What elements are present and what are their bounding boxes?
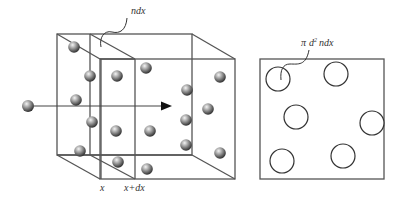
cross-section-view: πd2ndx — [260, 37, 384, 179]
cross-section-circle — [331, 144, 355, 168]
arrow-head-icon — [161, 102, 172, 111]
box-edge-bottom-left — [57, 155, 100, 179]
molecule-sphere — [86, 116, 98, 128]
molecule-sphere — [214, 147, 226, 159]
molecule-sphere — [70, 94, 82, 106]
molecule-sphere — [180, 114, 192, 126]
molecule-sphere — [74, 145, 86, 157]
molecule-sphere — [144, 125, 156, 137]
cross-section-circle — [284, 105, 308, 129]
slab-top-diagonal — [90, 34, 135, 59]
box-edge-top-right — [192, 34, 235, 59]
molecule-sphere — [111, 70, 123, 82]
label-pi-d2-ndx: πd2ndx — [301, 37, 334, 48]
diagram-canvas: ndx x x+dx πd2ndx — [0, 0, 401, 197]
cross-section-circles — [266, 62, 384, 173]
label-x: x — [99, 182, 105, 193]
incoming-molecule-path — [22, 100, 172, 112]
molecule-sphere — [141, 163, 153, 175]
molecule-sphere — [181, 84, 193, 96]
molecule-sphere — [140, 62, 152, 74]
molecule-sphere — [110, 125, 122, 137]
cross-section-circle — [266, 67, 290, 91]
slab-bottom-diagonal — [90, 155, 135, 179]
molecule-sphere — [84, 70, 96, 82]
cross-section-circle — [360, 111, 384, 135]
incoming-molecule-sphere — [22, 100, 34, 112]
box-edge-bottom-right — [192, 155, 235, 179]
molecule-sphere — [68, 41, 80, 53]
molecule-sphere — [180, 139, 192, 151]
cross-section-circle — [270, 149, 294, 173]
label-x-plus-dx: x+dx — [123, 182, 145, 193]
molecule-sphere — [202, 103, 214, 115]
molecule-sphere — [112, 156, 124, 168]
molecule-sphere — [214, 71, 226, 83]
cross-section-circle — [324, 62, 348, 86]
label-ndx: ndx — [131, 5, 146, 16]
